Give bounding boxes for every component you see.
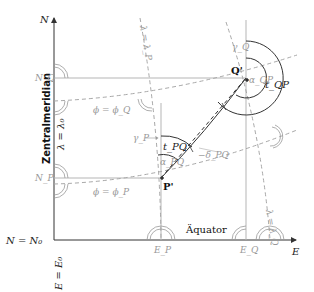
right-angle-markers xyxy=(54,64,284,240)
parallel-phi-q-label: ϕ = ϕ_Q xyxy=(93,105,131,116)
grid-label-eq: E_Q xyxy=(239,245,259,256)
equator-label: Äquator xyxy=(185,224,227,235)
meridian-lambda-q-label: λ = λ_Q xyxy=(263,208,280,248)
origin-north-label: N = N₀ xyxy=(5,235,42,246)
grid-label-ep: E_P xyxy=(153,245,172,256)
origin-east-label: E = E₀ xyxy=(53,257,64,291)
meridian-lambda-q xyxy=(226,22,270,240)
point-q-label: Q' xyxy=(231,65,243,76)
gamma-p-label: γ_P xyxy=(133,133,150,144)
central-meridian-label: Zentralmeridian xyxy=(41,73,52,164)
alpha-pq-label: α_PQ xyxy=(160,157,185,168)
parallel-phi-p-label: ϕ = ϕ_P xyxy=(93,187,130,198)
grid-label-nq: N_Q xyxy=(34,73,55,84)
delta-pq-label: −δ_PQ xyxy=(198,150,230,161)
meridian-lambda-p-label: λ = λ_P xyxy=(137,24,154,63)
point-p-label: P' xyxy=(163,181,174,192)
grid-label-np: N_P xyxy=(34,173,54,184)
north-axis-label: N xyxy=(39,14,50,25)
gamma-q-label: γ_Q xyxy=(232,42,250,53)
central-meridian-equation: λ = λ₀ xyxy=(55,119,66,151)
t-pq-label: t_PQ xyxy=(163,141,187,153)
utm-projection-diagram: N E N = N₀ E = E₀ Zentralmeridian λ = λ₀… xyxy=(0,0,314,292)
axes xyxy=(54,18,296,240)
dashed-curves xyxy=(54,18,297,240)
alpha-qp-label: α_QP xyxy=(249,75,274,86)
east-axis-label: E xyxy=(291,246,300,257)
